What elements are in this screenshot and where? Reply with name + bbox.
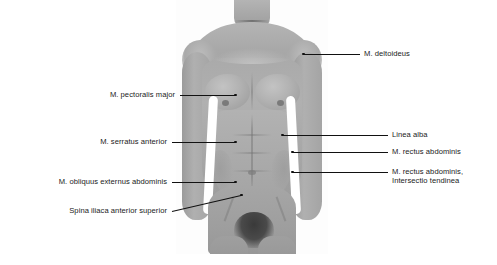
leader-dot-deltoideus bbox=[302, 53, 305, 56]
clavicle-highlight bbox=[210, 48, 294, 64]
label-rectus-abdominis-intersectio-tendinea: M. rectus abdominis, Intersectio tendine… bbox=[392, 167, 463, 186]
leader-line-deltoideus bbox=[304, 54, 360, 55]
label-rectus-abdominis-intersectio-line2: Intersectio tendinea bbox=[392, 176, 463, 185]
intersectio-tendinea-1 bbox=[232, 134, 272, 136]
label-linea-alba: Linea alba bbox=[392, 130, 428, 139]
label-rectus-abdominis: M. rectus abdominis bbox=[392, 147, 461, 156]
nipple-left bbox=[222, 100, 229, 106]
label-deltoideus: M. deltoideus bbox=[364, 49, 410, 58]
sternum-line bbox=[251, 72, 253, 112]
navel bbox=[248, 170, 256, 175]
leader-dot-rectus-abdominis bbox=[291, 151, 294, 154]
thigh-left bbox=[210, 236, 248, 254]
anatomy-figure: M. pectoralis major M. serratus anterior… bbox=[0, 0, 497, 265]
leader-dot-spina-iliaca-anterior-superior bbox=[240, 194, 243, 197]
nipple-right bbox=[277, 100, 284, 106]
leader-dot-serratus-anterior bbox=[234, 141, 237, 144]
leader-dot-pectoralis-major bbox=[234, 94, 237, 97]
thigh-right bbox=[258, 236, 296, 254]
anatomy-photograph bbox=[176, 0, 328, 254]
label-spina-iliaca-anterior-superior: Spina iliaca anterior superior bbox=[69, 206, 167, 215]
leader-line-linea-alba bbox=[283, 135, 388, 136]
leader-line-obliquus-externus-abdominis bbox=[172, 182, 236, 183]
leader-dot-linea-alba bbox=[281, 134, 284, 137]
label-serratus-anterior: M. serratus anterior bbox=[100, 137, 167, 146]
leader-dot-obliquus-externus-abdominis bbox=[234, 181, 237, 184]
intersectio-tendinea-2 bbox=[232, 152, 272, 154]
label-obliquus-externus-abdominis: M. obliquus externus abdominis bbox=[59, 177, 167, 186]
leader-line-rectus-abdominis-intersectio-tendinea bbox=[293, 172, 388, 173]
leader-line-pectoralis-major bbox=[180, 95, 236, 96]
label-pectoralis-major: M. pectoralis major bbox=[110, 90, 175, 99]
leader-line-serratus-anterior bbox=[172, 142, 236, 143]
label-rectus-abdominis-intersectio-line1: M. rectus abdominis, bbox=[392, 167, 463, 176]
leader-dot-rectus-abdominis-intersectio-tendinea bbox=[291, 171, 294, 174]
leader-line-rectus-abdominis bbox=[293, 152, 388, 153]
